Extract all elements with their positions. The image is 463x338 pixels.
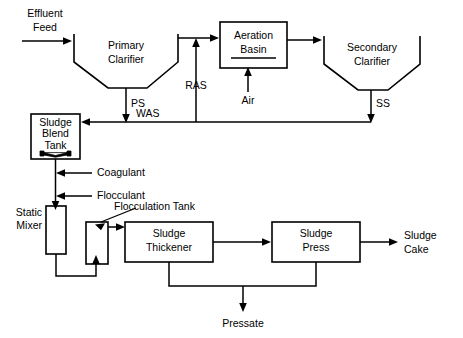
effluent-feed-label-line1: Effluent: [27, 7, 62, 19]
mixer-to-flocculation-arrowhead: [92, 255, 100, 264]
secondary-clarifier-label-line2: Clarifier: [354, 55, 391, 67]
ras-label: RAS: [185, 79, 207, 91]
static-mixer-label-line2: Mixer: [16, 219, 42, 231]
effluent-feed-arrowhead: [63, 37, 72, 45]
stream-mixer-to-flocculation: [56, 254, 100, 276]
sludge-blend-tank-label-line1: Sludge: [39, 116, 72, 128]
sludge-cake-label-line1: Sludge: [404, 229, 437, 241]
unit-sludge-thickener[interactable]: Sludge Thickener: [125, 222, 213, 262]
stream-ras: RAS: [185, 38, 207, 122]
unit-secondary-clarifier[interactable]: Secondary Clarifier: [324, 36, 420, 90]
stream-flocculation-to-thickener: [108, 223, 125, 231]
unit-static-mixer[interactable]: Static Mixer: [16, 206, 66, 254]
stream-air: Air: [242, 67, 255, 106]
mixer-impeller-icon: [40, 151, 71, 157]
stream-coagulant: Coagulant: [56, 166, 145, 178]
pressate-label: Pressate: [222, 317, 264, 329]
sludge-blend-tank-label-line2: Blend: [42, 127, 69, 139]
aeration-basin-label-line1: Aeration: [234, 29, 273, 41]
secondary-clarifier-label-line1: Secondary: [347, 41, 398, 53]
stream-pressate: Pressate: [169, 262, 316, 329]
pressate-arrowhead: [239, 303, 247, 312]
coagulant-label: Coagulant: [97, 166, 145, 178]
effluent-feed-label-line2: Feed: [33, 21, 57, 33]
unit-aeration-basin[interactable]: Aeration Basin: [220, 22, 287, 68]
pressate-collection-header: [169, 262, 316, 286]
unit-primary-clarifier[interactable]: Primary Clarifier: [74, 34, 178, 88]
primary-to-aeration-arrowhead: [210, 34, 219, 42]
sludge-blend-tank-label-line3: Tank: [44, 139, 67, 151]
sludge-press-label-line1: Sludge: [300, 227, 333, 239]
coagulant-arrowhead: [56, 169, 65, 177]
ss-label: SS: [376, 97, 390, 109]
stream-blend-to-static-mixer: [52, 159, 60, 210]
was-label: WAS: [136, 107, 160, 119]
flocculation-to-thickener-arrowhead: [116, 223, 125, 231]
unit-sludge-press[interactable]: Sludge Press: [272, 222, 360, 262]
ras-arrowhead: [192, 38, 200, 47]
aeration-basin-label-line2: Basin: [240, 43, 266, 55]
static-mixer-box: [46, 206, 66, 254]
stream-sludge-cake: Sludge Cake: [360, 229, 437, 255]
sludge-press-label-line2: Press: [303, 241, 330, 253]
stream-primary-overflow-to-aeration: [178, 34, 219, 42]
sludge-thickener-label-line2: Thickener: [146, 241, 193, 253]
sludge-thickener-label-line1: Sludge: [153, 227, 186, 239]
flow-diagram-canvas: Effluent Feed Primary Clarifier PS RAS: [0, 0, 463, 338]
primary-clarifier-label-line1: Primary: [108, 39, 145, 51]
process-flow-diagram: Effluent Feed Primary Clarifier PS RAS: [0, 0, 463, 338]
sludge-cake-label-line2: Cake: [404, 243, 429, 255]
flocculation-tank-label: Flocculation Tank: [114, 200, 196, 212]
stream-effluent-feed: Effluent Feed: [22, 7, 72, 45]
primary-clarifier-label-line2: Clarifier: [108, 53, 145, 65]
stream-thickener-to-press: [213, 238, 271, 246]
unit-sludge-blend-tank[interactable]: Sludge Blend Tank: [31, 114, 80, 159]
air-label: Air: [242, 94, 255, 106]
stream-ss: SS: [367, 90, 390, 123]
aeration-to-secondary-arrowhead: [313, 36, 322, 44]
sludge-cake-arrowhead: [389, 238, 398, 246]
static-mixer-label-line1: Static: [16, 206, 42, 218]
mixer-to-flocculation-line: [56, 254, 96, 276]
flocculation-tank-leader-arrowhead: [95, 223, 105, 230]
stream-aeration-to-secondary: [287, 36, 322, 44]
flocculant-arrowhead: [56, 192, 65, 200]
thickener-to-press-arrowhead: [262, 238, 271, 246]
was-arrowhead: [81, 118, 90, 126]
